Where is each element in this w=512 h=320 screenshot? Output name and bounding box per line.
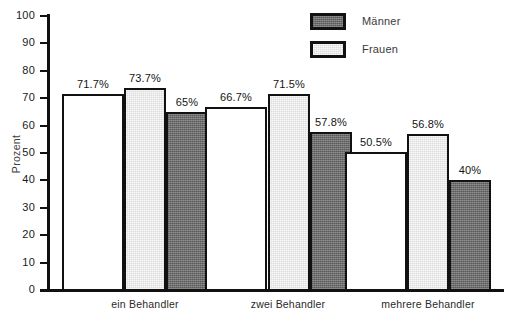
y-tick-label-30: 30 <box>5 202 35 213</box>
y-tick-50 <box>40 152 50 154</box>
y-tick-10 <box>40 262 50 264</box>
legend-label: Frauen <box>362 43 398 56</box>
bar-value-label: 66.7% <box>210 92 262 103</box>
y-tick-30 <box>40 207 50 209</box>
bar-value-label: 65% <box>161 97 213 108</box>
y-tick-label-70: 70 <box>5 92 35 103</box>
bar-frauen-2 <box>407 134 449 291</box>
bar-value-label: 73.7% <box>119 73 171 84</box>
bar-gesamt-2 <box>345 152 407 291</box>
bar-value-label: 50.5% <box>350 137 402 148</box>
bar-value-label: 71.7% <box>67 79 119 90</box>
category-label-1: zwei Behandler <box>228 298 348 310</box>
y-tick-label-50: 50 <box>5 147 35 158</box>
bar-frauen-0 <box>124 88 166 291</box>
bar-value-label: 56.8% <box>402 119 454 130</box>
category-label-0: ein Behandler <box>85 298 205 310</box>
y-tick-60 <box>40 125 50 127</box>
bar-frauen-1 <box>268 94 310 291</box>
bar-gesamt-1 <box>205 107 267 291</box>
y-tick-70 <box>40 97 50 99</box>
y-tick-label-100: 100 <box>5 10 35 21</box>
bar-gesamt-0 <box>62 94 124 291</box>
y-tick-label-40: 40 <box>5 174 35 185</box>
bar-männer-2 <box>449 180 491 291</box>
y-tick-label-10: 10 <box>5 257 35 268</box>
y-tick-100 <box>40 15 50 17</box>
y-tick-label-80: 80 <box>5 65 35 76</box>
y-tick-40 <box>40 179 50 181</box>
bar-value-label: 40% <box>444 165 496 176</box>
y-tick-90 <box>40 42 50 44</box>
legend-swatch-dark <box>310 13 346 30</box>
legend-label: Männer <box>362 15 401 28</box>
bar-value-label: 71.5% <box>263 79 315 90</box>
bar-value-label: 57.8% <box>305 117 357 128</box>
y-tick-0 <box>40 289 50 291</box>
y-tick-label-0: 0 <box>5 284 35 295</box>
y-tick-label-20: 20 <box>5 229 35 240</box>
category-label-2: mehrere Behandler <box>368 298 488 310</box>
y-tick-80 <box>40 70 50 72</box>
y-tick-20 <box>40 234 50 236</box>
y-tick-label-90: 90 <box>5 37 35 48</box>
legend-swatch-light <box>310 41 346 58</box>
y-tick-label-60: 60 <box>5 120 35 131</box>
bar-männer-0 <box>166 112 208 291</box>
bar-chart: Prozent 0102030405060708090100 71.7%73.7… <box>0 0 512 320</box>
